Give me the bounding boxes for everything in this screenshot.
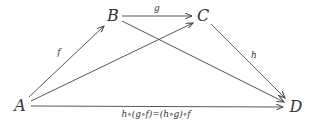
node-a: A <box>14 98 26 114</box>
label-g: g <box>154 4 160 13</box>
node-d: D <box>290 99 303 115</box>
arrow-a-to-c <box>31 23 193 101</box>
arrow-a-to-b <box>29 26 104 97</box>
node-b: B <box>107 8 119 24</box>
arrow-a-to-d <box>31 106 283 107</box>
label-h: h <box>251 51 257 60</box>
arrow-b-to-d <box>122 21 284 102</box>
node-c: C <box>197 8 209 24</box>
commutative-diagram: A B C D f g h h∘(g∘f)=(h∘g)∘f <box>0 0 316 125</box>
label-f: f <box>57 48 60 57</box>
arrow-c-to-d <box>211 24 285 98</box>
diagram-arrows <box>0 0 316 125</box>
label-composite: h∘(g∘f)=(h∘g)∘f <box>121 110 190 119</box>
